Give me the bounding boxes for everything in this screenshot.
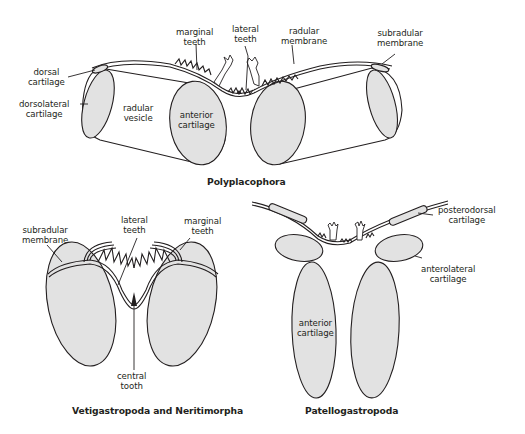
label-subradular-membrane: subradular membrane	[377, 28, 423, 48]
vetigastropoda-panel	[36, 236, 228, 373]
label-marginal-teeth-veti: marginal teeth	[184, 216, 221, 236]
left-lateral-tooth	[328, 222, 338, 240]
label-subradular-membrane-veti: subradular membrane	[22, 225, 68, 245]
left-lateral-tooth	[214, 55, 233, 86]
right-anterior-cartilage	[347, 261, 402, 399]
right-lateral-tooth	[355, 221, 365, 240]
label-anterior-cartilage-poly: anterior cartilage	[178, 110, 215, 130]
label-marginal-teeth: marginal teeth	[176, 27, 213, 47]
title-polyplacophora: Polyplacophora	[207, 176, 286, 187]
right-lateral-tooth	[247, 57, 259, 86]
label-central-tooth: central tooth	[117, 371, 146, 391]
right-cartilage	[137, 236, 228, 373]
label-lateral-teeth: lateral teeth	[232, 24, 259, 44]
right-anterolateral-cartilage	[373, 231, 425, 265]
label-dorsolateral-cartilage: dorsolateral cartilage	[19, 99, 69, 119]
right-posterodorsal-cartilage	[388, 205, 428, 226]
label-radular-membrane: radular membrane	[281, 26, 327, 46]
label-posterodorsal-cartilage: posterodorsal cartilage	[438, 205, 496, 225]
patellogastropoda-panel	[252, 201, 448, 399]
left-posterodorsal-cartilage	[268, 203, 308, 224]
label-anterior-cartilage-patello: anterior cartilage	[297, 318, 334, 338]
label-radular-vesicle: radular vesicle	[123, 103, 153, 123]
polyplacophora-panel	[68, 44, 404, 168]
title-vetigastropoda: Vetigastropoda and Neritimorpha	[72, 405, 243, 416]
label-anterolateral-cartilage: anterolateral cartilage	[421, 264, 475, 284]
label-lateral-teeth-veti: lateral teeth	[121, 215, 148, 235]
label-dorsal-cartilage: dorsal cartilage	[28, 67, 65, 87]
title-patellogastropoda: Patellogastropoda	[305, 405, 398, 416]
left-anterolateral-cartilage	[273, 231, 325, 265]
